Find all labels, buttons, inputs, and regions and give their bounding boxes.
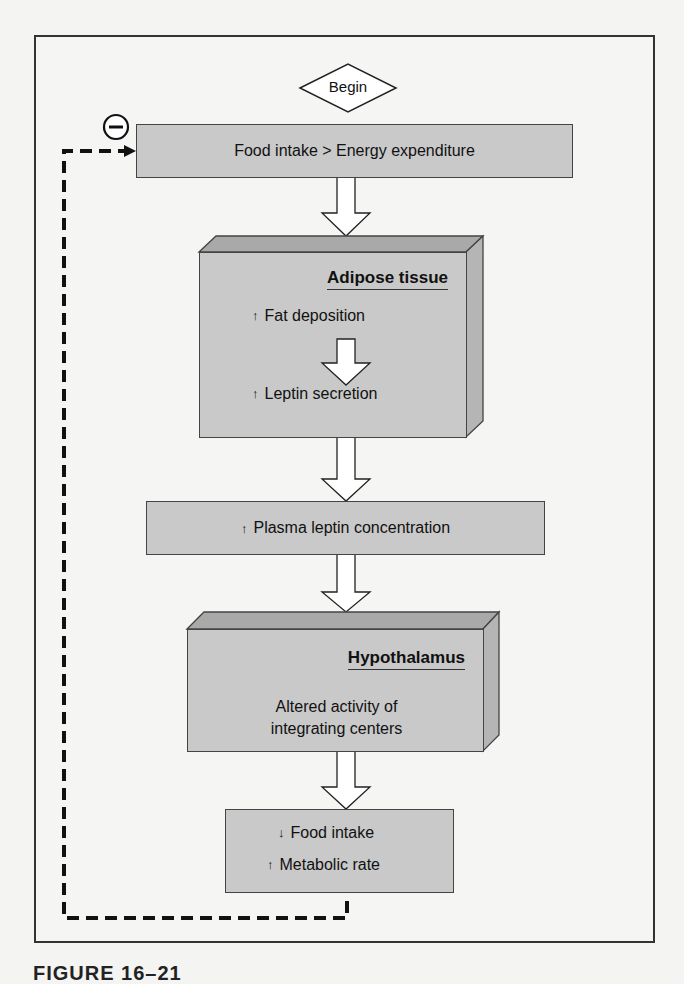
outcome-box: ↓Food intake ↑Metabolic rate bbox=[225, 809, 454, 893]
down-arrow-icon: ↓ bbox=[278, 825, 285, 840]
hypothalamus-box: Hypothalamus Altered activity of integra… bbox=[187, 629, 484, 752]
integrating-centers-text: Altered activity of integrating centers bbox=[188, 696, 485, 740]
plasma-leptin-box: ↑Plasma leptin concentration bbox=[146, 501, 545, 555]
figure-caption: FIGURE 16–21 bbox=[33, 962, 182, 984]
down-arrow-icon bbox=[322, 339, 370, 385]
metabolic-rate-line: ↑Metabolic rate bbox=[267, 856, 380, 874]
up-arrow-icon: ↑ bbox=[267, 857, 274, 872]
food-intake-text: Food intake bbox=[291, 824, 375, 841]
plasma-leptin-text: Plasma leptin concentration bbox=[253, 519, 450, 537]
integrating-centers-line1: Altered activity of bbox=[188, 696, 485, 718]
metabolic-rate-text: Metabolic rate bbox=[280, 856, 381, 873]
integrating-centers-line2: integrating centers bbox=[188, 718, 485, 740]
hypothalamus-title: Hypothalamus bbox=[348, 648, 465, 670]
food-intake-line: ↓Food intake bbox=[278, 824, 374, 842]
up-arrow-icon: ↑ bbox=[241, 521, 248, 536]
